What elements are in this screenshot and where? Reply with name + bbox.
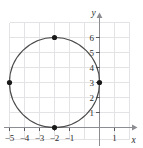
left-point bbox=[7, 80, 12, 85]
bottom-point bbox=[52, 125, 57, 130]
coordinate-plane-chart: −5 −4 −3 −2 −1 1 1 2 3 4 5 6 x y bbox=[0, 0, 143, 148]
x-axis-label: x bbox=[130, 135, 136, 145]
y-tick-label: 6 bbox=[90, 33, 95, 43]
x-tick-label: −5 bbox=[5, 133, 15, 143]
y-tick-label: 4 bbox=[90, 63, 95, 73]
right-point bbox=[97, 80, 102, 85]
x-tick-label: −4 bbox=[20, 133, 30, 143]
y-tick-label: 3 bbox=[90, 78, 95, 88]
y-axis-label: y bbox=[90, 8, 96, 18]
x-tick-label: −1 bbox=[65, 133, 75, 143]
y-tick-label: 1 bbox=[90, 108, 95, 118]
x-tick-label: −2 bbox=[50, 133, 60, 143]
graph-figure: −5 −4 −3 −2 −1 1 1 2 3 4 5 6 x y bbox=[0, 0, 143, 148]
x-tick-label: −3 bbox=[35, 133, 45, 143]
y-tick-label: 2 bbox=[90, 93, 95, 103]
x-tick-label: 1 bbox=[112, 133, 117, 143]
top-point bbox=[52, 35, 57, 40]
